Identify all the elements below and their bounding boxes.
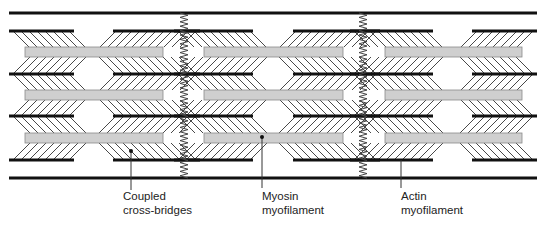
cross-bridge bbox=[492, 57, 509, 74]
cross-bridge bbox=[335, 116, 352, 133]
cross-bridge bbox=[163, 143, 180, 160]
cross-bridge bbox=[13, 74, 29, 90]
cross-bridge bbox=[218, 116, 235, 133]
cross-bridge bbox=[320, 31, 336, 47]
cross-bridge bbox=[156, 31, 172, 47]
cross-bridge bbox=[242, 116, 259, 133]
cross-bridge bbox=[517, 100, 533, 116]
cross-bridge bbox=[303, 143, 320, 160]
cross-bridge bbox=[461, 100, 477, 116]
cross-bridge bbox=[194, 74, 210, 90]
cross-bridge bbox=[164, 100, 180, 116]
cross-bridge bbox=[202, 57, 219, 74]
cross-bridge bbox=[250, 74, 266, 90]
cross-bridge bbox=[319, 116, 336, 133]
cross-bridge bbox=[45, 116, 62, 133]
cross-bridge bbox=[116, 100, 132, 116]
cross-bridge bbox=[402, 31, 418, 47]
cross-bridge bbox=[163, 116, 180, 133]
cross-bridge bbox=[328, 100, 344, 116]
cross-bridge bbox=[394, 100, 410, 116]
cross-bridge bbox=[21, 143, 38, 160]
cross-bridge bbox=[29, 143, 46, 160]
label-line-2: myofilament bbox=[401, 203, 463, 217]
cross-bridge bbox=[37, 57, 54, 74]
cross-bridge bbox=[194, 116, 211, 133]
cross-bridge bbox=[108, 31, 124, 47]
cross-bridge bbox=[226, 116, 243, 133]
cross-bridge bbox=[508, 143, 525, 160]
cross-bridge bbox=[250, 57, 267, 74]
label-myosin-myofilament: Myosin myofilament bbox=[262, 189, 324, 217]
cross-bridge bbox=[108, 74, 124, 90]
cross-bridge bbox=[343, 143, 360, 160]
cross-bridge bbox=[378, 143, 395, 160]
cross-bridge bbox=[242, 143, 259, 160]
cross-bridge bbox=[378, 31, 394, 47]
cross-bridge bbox=[242, 57, 259, 74]
cross-bridge bbox=[461, 31, 477, 47]
cross-bridge bbox=[218, 74, 234, 90]
cross-bridge bbox=[202, 100, 218, 116]
cross-bridge bbox=[164, 74, 180, 90]
cross-bridge bbox=[336, 31, 352, 47]
cross-bridge bbox=[500, 116, 517, 133]
cross-bridge bbox=[37, 143, 54, 160]
cross-bridge bbox=[288, 74, 304, 90]
cross-bridge bbox=[53, 116, 70, 133]
cross-bridge bbox=[477, 31, 493, 47]
cross-bridge bbox=[288, 31, 304, 47]
myosin-myofilaments bbox=[25, 47, 522, 143]
cross-bridge bbox=[124, 100, 140, 116]
cross-bridge bbox=[394, 74, 410, 90]
cross-bridge bbox=[288, 100, 304, 116]
cross-bridge bbox=[45, 143, 62, 160]
cross-bridge bbox=[107, 143, 124, 160]
cross-bridge bbox=[303, 116, 320, 133]
cross-bridge bbox=[410, 31, 426, 47]
cross-bridge bbox=[493, 31, 509, 47]
cross-bridge bbox=[461, 74, 477, 90]
cross-bridge bbox=[69, 143, 86, 160]
cross-bridge bbox=[311, 57, 328, 74]
cross-bridge bbox=[234, 74, 250, 90]
cross-bridge bbox=[386, 57, 403, 74]
cross-bridge bbox=[328, 31, 344, 47]
cross-bridge bbox=[37, 100, 53, 116]
cross-bridge bbox=[45, 31, 61, 47]
cross-bridge bbox=[386, 143, 403, 160]
cross-bridge bbox=[100, 31, 116, 47]
label-coupled-cross-bridges: Coupled cross-bridges bbox=[123, 189, 192, 217]
cross-bridge bbox=[164, 31, 180, 47]
cross-bridge bbox=[370, 116, 387, 133]
cross-bridge bbox=[402, 100, 418, 116]
myosin-filament bbox=[204, 133, 343, 143]
cross-bridge bbox=[139, 116, 156, 133]
cross-bridge bbox=[45, 74, 61, 90]
cross-bridge bbox=[484, 116, 501, 133]
cross-bridge bbox=[378, 100, 394, 116]
cross-bridge bbox=[29, 74, 45, 90]
cross-bridge bbox=[327, 143, 344, 160]
cross-bridge bbox=[210, 116, 227, 133]
cross-bridge bbox=[29, 31, 45, 47]
label-line-1: Myosin bbox=[262, 189, 324, 203]
cross-bridge bbox=[210, 31, 226, 47]
cross-bridge bbox=[516, 116, 533, 133]
cross-bridge bbox=[29, 116, 46, 133]
cross-bridge bbox=[21, 31, 37, 47]
myosin-filament bbox=[25, 47, 163, 57]
cross-bridge bbox=[410, 74, 426, 90]
cross-bridge bbox=[508, 57, 525, 74]
cross-bridge bbox=[418, 31, 434, 47]
cross-bridge bbox=[386, 116, 403, 133]
cross-bridge bbox=[131, 143, 148, 160]
cross-bridge bbox=[460, 143, 477, 160]
cross-bridge bbox=[394, 143, 411, 160]
cross-bridge bbox=[279, 116, 296, 133]
cross-bridge bbox=[61, 143, 78, 160]
cross-bridge bbox=[335, 143, 352, 160]
cross-bridge bbox=[21, 74, 37, 90]
cross-bridge bbox=[426, 116, 443, 133]
cross-bridge bbox=[410, 116, 427, 133]
